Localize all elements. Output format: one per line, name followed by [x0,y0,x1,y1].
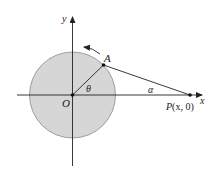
point-p-label: P(x, 0) [165,101,194,113]
y-axis-label: y [61,13,67,24]
point-origin [71,93,75,97]
rotation-arrow-icon [84,47,100,54]
point-p-coords: (x, 0) [172,101,194,113]
origin-label: O [62,97,70,109]
point-a-label: A [103,52,111,64]
theta-label: θ [86,83,91,94]
x-axis-label: x [199,95,205,106]
point-p-name: P [165,101,172,112]
segment-ap [104,65,191,95]
alpha-label: α [148,84,154,95]
point-p [188,93,192,97]
circle-diagram: y x O A θ α P(x, 0) [0,0,219,171]
